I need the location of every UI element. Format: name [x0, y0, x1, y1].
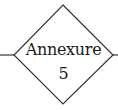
node-label-line1: Annexure: [14, 42, 113, 58]
node-label-line2: 5: [14, 66, 113, 82]
